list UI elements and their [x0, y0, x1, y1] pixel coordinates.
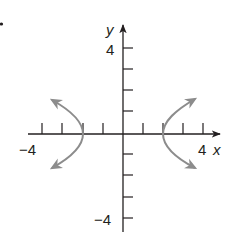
- x-max-label: 4: [198, 141, 206, 158]
- y-ticks: [123, 48, 133, 218]
- hyperbola-left-branch-lower: [52, 134, 83, 168]
- bullet-marker: [0, 22, 3, 25]
- y-min-label: −4: [94, 211, 111, 228]
- hyperbola-right-branch-upper: [163, 99, 195, 134]
- y-max-label: 4: [106, 41, 114, 58]
- hyperbola-chart: y 4 −4 −4 4 x: [0, 0, 242, 248]
- x-axis-label: x: [212, 141, 221, 158]
- y-axis-label: y: [105, 21, 115, 38]
- hyperbola-right-branch-lower: [163, 134, 195, 168]
- x-min-label: −4: [19, 141, 36, 158]
- hyperbola-left-branch-upper: [52, 100, 83, 134]
